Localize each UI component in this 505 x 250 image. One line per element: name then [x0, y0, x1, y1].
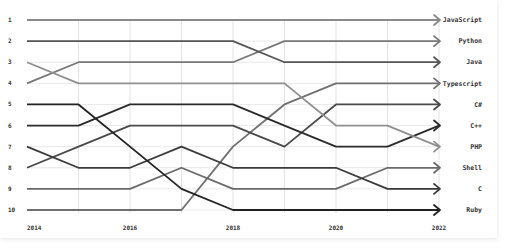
- series-label: JavaScript: [443, 16, 482, 24]
- y-tick-label: 7: [8, 143, 12, 150]
- y-axis-ticks: 12345678910: [8, 16, 16, 213]
- y-tick-label: 3: [8, 58, 12, 65]
- series-label: C: [478, 185, 482, 193]
- x-tick-label: 2016: [123, 224, 138, 231]
- x-axis-ticks: 20142016201820202022: [27, 224, 447, 231]
- x-tick-label: 2018: [226, 224, 241, 231]
- y-tick-label: 10: [8, 206, 16, 213]
- series-label: Ruby: [466, 206, 482, 214]
- y-tick-label: 6: [8, 122, 12, 129]
- y-tick-label: 9: [8, 185, 12, 192]
- series-end-labels: JavaScriptPythonJavaTypescriptC#C++PHPSh…: [443, 16, 482, 214]
- x-tick-label: 2014: [27, 224, 42, 231]
- series-label: Typescript: [443, 80, 482, 88]
- series-label: Python: [459, 37, 483, 45]
- y-tick-label: 5: [8, 100, 12, 107]
- series-label: Shell: [462, 164, 482, 172]
- series-label: PHP: [470, 143, 482, 151]
- y-tick-label: 2: [8, 37, 12, 44]
- series-label: C#: [474, 101, 482, 109]
- series-lines: [27, 15, 440, 215]
- bump-chart: 12345678910 20142016201820202022 JavaScr…: [0, 0, 505, 250]
- series-label: Java: [466, 58, 482, 66]
- x-tick-label: 2020: [329, 224, 344, 231]
- y-tick-label: 1: [8, 16, 12, 23]
- x-tick-label: 2022: [432, 224, 447, 231]
- series-label: C++: [470, 122, 482, 130]
- y-tick-label: 4: [8, 79, 12, 86]
- y-tick-label: 8: [8, 164, 12, 171]
